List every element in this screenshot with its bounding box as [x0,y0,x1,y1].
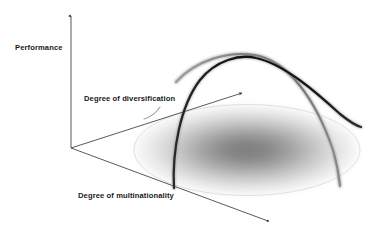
performance-surface-ellipse [134,105,360,196]
diversification-axis-label: Degree of diversification [84,95,175,103]
leader-stroke [144,107,160,119]
diagram-canvas: Performance Degree of diversification De… [0,0,386,240]
performance-axis-label: Performance [15,44,63,52]
diagram-svg [0,0,386,240]
diversification-leader-line [144,107,160,119]
multinationality-axis-label: Degree of multinationality [78,192,174,200]
surface-shading [134,105,360,196]
